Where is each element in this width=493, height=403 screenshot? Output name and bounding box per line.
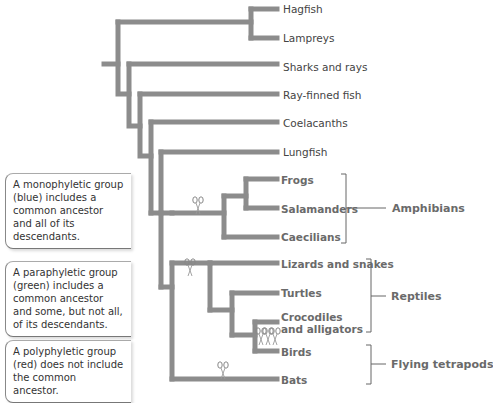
leaf-label: Ray-finned fish: [283, 89, 361, 101]
leaf-label: Salamanders: [281, 203, 358, 215]
scissors-icon: [270, 328, 280, 345]
leaf-label: and alligators: [281, 323, 363, 335]
leaf-label: Birds: [281, 346, 312, 358]
leaf-label: Lizards and snakes: [281, 258, 394, 270]
definition-note: A polyphyletic group (red) does not incl…: [5, 340, 131, 403]
leaf-label: Caecilians: [281, 231, 341, 243]
group-label: Reptiles: [391, 290, 442, 303]
scissors-icon: [218, 362, 228, 379]
leaf-label: Coelacanths: [283, 117, 348, 129]
leaf-label: Bats: [281, 374, 307, 386]
group-label: Amphibians: [392, 202, 465, 215]
definition-note: A paraphyletic group (green) includes a …: [5, 261, 131, 337]
leaf-label: Lungfish: [283, 146, 327, 158]
group-label: Flying tetrapods: [391, 358, 493, 371]
leaf-label: Turtles: [281, 287, 322, 299]
group-bracket: [366, 345, 386, 384]
leaf-label: Hagfish: [283, 3, 323, 15]
scissors-icon: [263, 328, 273, 345]
leaf-label: Crocodiles: [281, 311, 343, 323]
leaf-label: Sharks and rays: [283, 61, 368, 73]
definition-note: A monophyletic group (blue) includes a c…: [5, 173, 131, 249]
leaf-label: Lampreys: [283, 32, 334, 44]
leaf-label: Frogs: [281, 174, 314, 186]
